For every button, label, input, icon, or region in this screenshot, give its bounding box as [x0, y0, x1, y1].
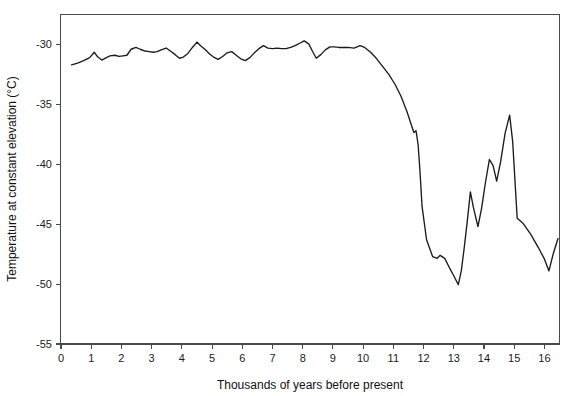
temperature-series-line	[72, 41, 558, 285]
y-tick-label: -45	[36, 218, 52, 230]
x-tick-label: 9	[330, 352, 336, 364]
x-tick-label: 3	[149, 352, 155, 364]
x-tick-label: 2	[118, 352, 124, 364]
temperature-line-chart: -30-35-40-45-50-55 012345678910111213141…	[0, 0, 575, 396]
y-tick-label: -30	[36, 38, 52, 50]
y-tick-label: -35	[36, 98, 52, 110]
x-tick-label: 11	[388, 352, 399, 364]
x-tick-label: 16	[538, 352, 550, 364]
x-tick-label: 8	[300, 352, 306, 364]
x-tick-label: 4	[179, 352, 185, 364]
y-tick-label: -40	[36, 158, 52, 170]
x-tick-label: 6	[239, 352, 245, 364]
chart-figure: -30-35-40-45-50-55 012345678910111213141…	[0, 0, 575, 396]
x-tick-label: 12	[417, 352, 429, 364]
x-tick-label: 7	[269, 352, 275, 364]
y-axis-ticks: -30-35-40-45-50-55	[36, 38, 61, 350]
x-tick-label: 15	[508, 352, 520, 364]
y-axis-title: Temperature at constant elevation (°C)	[5, 76, 19, 282]
x-tick-label: 10	[357, 352, 369, 364]
y-tick-label: -50	[36, 278, 52, 290]
x-axis-ticks: 012345678910111213141516	[58, 344, 551, 364]
x-axis-title: Thousands of years before present	[217, 378, 404, 392]
x-tick-label: 5	[209, 352, 215, 364]
x-tick-label: 13	[448, 352, 460, 364]
x-tick-label: 1	[88, 352, 94, 364]
x-tick-label: 0	[58, 352, 64, 364]
y-tick-label: -55	[36, 338, 52, 350]
plot-frame	[61, 15, 560, 345]
x-tick-label: 14	[478, 352, 490, 364]
